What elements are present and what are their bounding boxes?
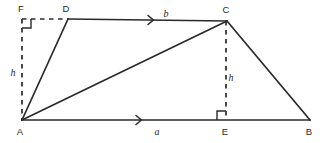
vertex-label-C: C xyxy=(223,4,230,15)
geometry-figure: A B C D E F b a h h xyxy=(0,0,328,143)
solid-edge-C-B xyxy=(227,21,310,120)
measure-label-height-right: h xyxy=(229,72,234,83)
measure-label-side-a: a xyxy=(155,126,160,137)
vertex-label-D: D xyxy=(63,3,70,14)
vertex-label-B: B xyxy=(306,126,312,137)
solid-edge-A-D xyxy=(22,19,68,120)
solid-edge-D-C xyxy=(68,19,227,21)
measure-label-height-left: h xyxy=(11,67,16,78)
right-angle-marker-F xyxy=(22,19,31,28)
vertex-label-E: E xyxy=(222,126,228,137)
solid-edge-A-C xyxy=(22,21,227,120)
right-angle-marker-E xyxy=(217,111,226,120)
measure-label-side-b: b xyxy=(164,8,169,19)
vertex-label-A: A xyxy=(17,126,24,137)
figure-canvas: A B C D E F b a h h xyxy=(0,0,328,143)
vertex-label-F: F xyxy=(18,3,24,14)
